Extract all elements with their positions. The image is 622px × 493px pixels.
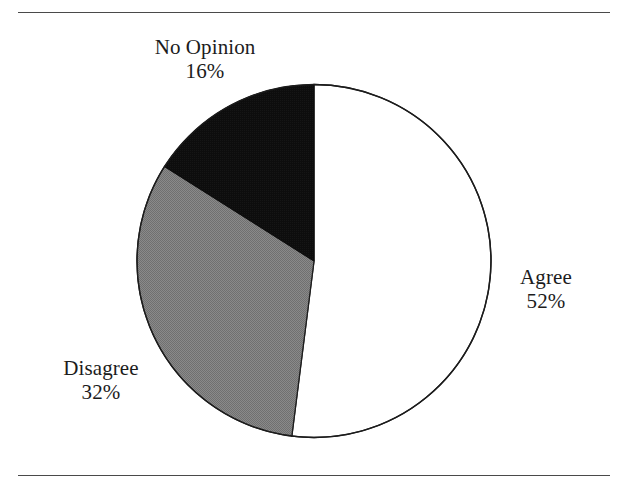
pie-label-no-opinion-name: No Opinion [113, 36, 297, 60]
pie-label-agree: Agree 52% [492, 266, 600, 313]
pie-label-no-opinion: No Opinion 16% [113, 36, 297, 83]
pie-label-agree-name: Agree [492, 266, 600, 290]
pie-label-agree-value: 52% [492, 290, 600, 314]
pie-label-disagree: Disagree 32% [38, 357, 164, 404]
bottom-rule [18, 475, 610, 476]
pie-label-no-opinion-value: 16% [113, 60, 297, 84]
pie-label-disagree-name: Disagree [38, 357, 164, 381]
figure-root: No Opinion 16% Agree 52% Disagree 32% [0, 0, 622, 493]
pie-slice-agree [292, 85, 491, 438]
pie-label-disagree-value: 32% [38, 381, 164, 405]
pie-chart [0, 0, 622, 493]
